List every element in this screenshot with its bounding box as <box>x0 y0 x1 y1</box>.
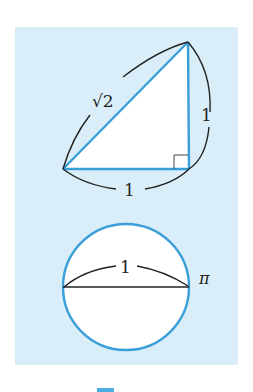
vertical-leg-arc-lower <box>189 127 209 169</box>
horizontal-leg-arc-left <box>63 169 116 189</box>
circle-figure: 1 π <box>63 224 210 350</box>
vertical-leg-label: 1 <box>201 105 212 125</box>
diameter-label: 1 <box>120 257 131 277</box>
horizontal-leg-label: 1 <box>124 180 135 200</box>
vertical-leg-arc-upper <box>188 42 210 112</box>
vertical-leg-line <box>188 42 189 169</box>
section-marker <box>97 388 114 392</box>
circumference-label: π <box>198 269 210 288</box>
hypotenuse-label: √2 <box>92 91 114 111</box>
triangle-figure: √2 1 1 <box>63 42 212 200</box>
figure-svg: √2 1 1 1 π <box>0 0 253 392</box>
horizontal-leg-arc-right <box>145 169 189 189</box>
